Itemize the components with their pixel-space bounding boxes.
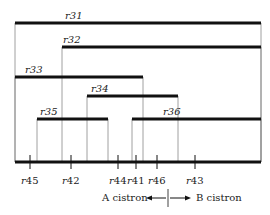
deletion-label-r33: r33 (25, 65, 43, 75)
b-cistron-label: B cistron (196, 193, 242, 203)
point-mutation-label-r44: r44 (109, 176, 127, 186)
point-mutation-label-r41: r41 (127, 176, 145, 186)
point-mutation-label-r46: r46 (148, 176, 166, 186)
arrow-right-icon (185, 196, 191, 201)
deletion-label-r36: r36 (163, 107, 181, 117)
deletion-label-r31: r31 (65, 11, 83, 21)
deletion-label-r35: r35 (40, 107, 58, 117)
deletion-label-r34: r34 (91, 84, 109, 94)
point-mutation-label-r42: r42 (62, 176, 80, 186)
point-mutation-label-r43: r43 (186, 176, 204, 186)
point-mutation-label-r45: r45 (21, 176, 39, 186)
a-cistron-label: A cistron (102, 193, 148, 203)
deletion-mapping-diagram: r31r32r33r34r35r36r45r42r44r41r46r43 A c… (0, 0, 270, 215)
deletion-label-r32: r32 (63, 35, 81, 45)
